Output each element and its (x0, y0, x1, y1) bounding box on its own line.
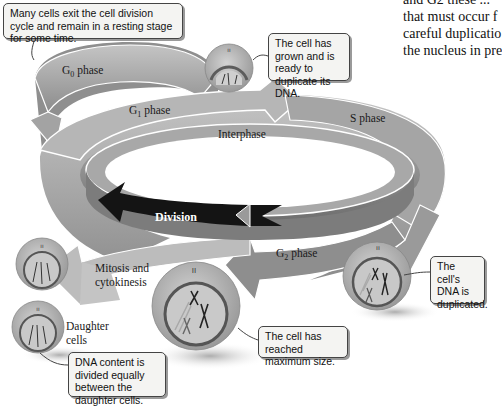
mitosis-label-line1: Mitosis and (95, 261, 149, 275)
cell-g1: ıı (205, 44, 253, 92)
daughter-label-line2: cells (66, 333, 109, 347)
svg-text:ıı: ıı (36, 305, 40, 312)
svg-text:ıı: ıı (40, 242, 44, 249)
body-text-line: the nucleus in pre (403, 42, 502, 59)
body-text-line: and G2 these ... (403, 0, 490, 8)
daughter-label-line1: Daughter (66, 319, 109, 333)
mitosis-label: Mitosis and cytokinesis (95, 261, 149, 289)
svg-text:ıı: ıı (227, 46, 231, 53)
leader-line (238, 328, 258, 340)
s-phase-label: S phase (350, 112, 385, 124)
g0-phase-label: G0 phase (62, 64, 103, 76)
body-text-line: that must occur f (403, 8, 497, 25)
body-text-line: careful duplicatio (403, 25, 501, 42)
callout-max-size: The cell has reached maximum size. (258, 326, 348, 358)
daughter-cell-1: ıı (16, 238, 68, 290)
leader-line (253, 55, 268, 60)
callout-dna-divided: DNA content is divided equally between t… (68, 352, 166, 397)
g1-phase-label: G1 phase (129, 104, 170, 116)
svg-text:ıı: ıı (192, 266, 196, 275)
callout-g0-resting: Many cells exit the cell division cycle … (3, 3, 183, 39)
interphase-label: Interphase (218, 128, 266, 140)
cell-s: ıı (343, 242, 411, 310)
g2-phase-label: G2 phase (276, 247, 317, 259)
daughter-cells-label: Daughter cells (66, 319, 109, 347)
callout-g1-ready: The cell has grown and is ready to dupli… (268, 33, 350, 81)
division-label: Division (155, 210, 197, 225)
callout-dna-duplicated: The cell's DNA is duplicated. (430, 256, 485, 304)
mitosis-label-line2: cytokinesis (95, 275, 149, 289)
cell-g2: ıı (152, 262, 240, 350)
daughter-cell-2: ıı (12, 301, 64, 353)
svg-text:ıı: ıı (376, 244, 380, 252)
